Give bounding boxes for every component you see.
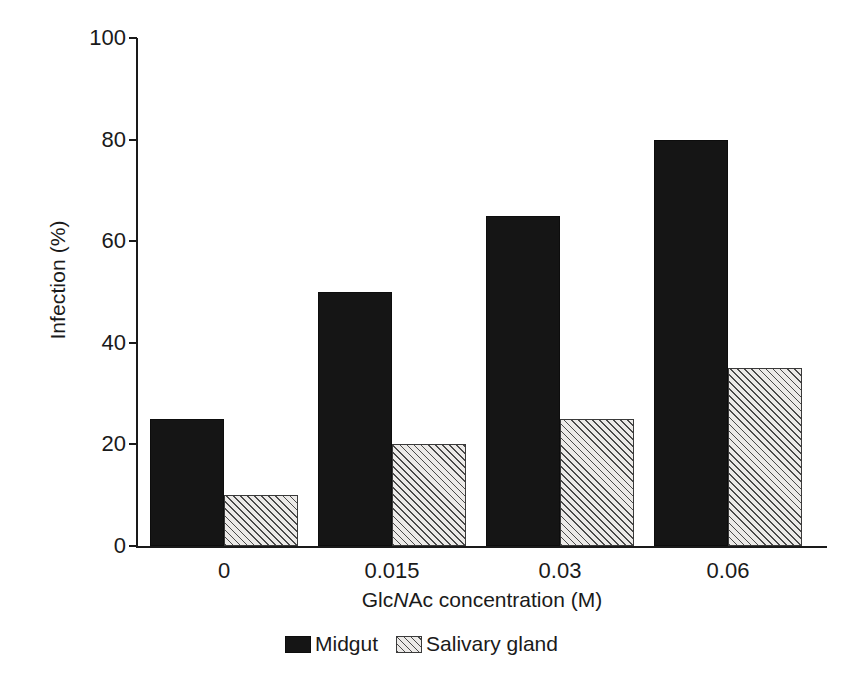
y-tick-label: 80 — [58, 129, 126, 151]
x-tick-label: 0.015 — [364, 556, 419, 586]
bar-salivary — [728, 368, 802, 546]
bar-midgut — [318, 292, 392, 546]
x-axis-title-pre: Glc — [362, 588, 394, 611]
y-tick-mark — [129, 443, 137, 445]
legend-item: Salivary gland — [396, 632, 558, 656]
x-axis-title: GlcNAc concentration (M) — [137, 588, 827, 612]
y-axis-line — [136, 38, 138, 547]
x-axis-tick-labels: 00.0150.030.06 — [137, 556, 827, 590]
x-axis-title-post: Ac concentration (M) — [408, 588, 602, 611]
y-tick-mark — [129, 139, 137, 141]
y-tick-label: 100 — [58, 27, 126, 49]
y-axis-tick-labels: 020406080100 — [58, 0, 126, 696]
legend-label: Salivary gland — [426, 632, 558, 656]
bar-salivary — [560, 419, 634, 546]
bar-chart-figure: Infection (%) 020406080100 00.0150.030.0… — [0, 0, 843, 696]
bar-salivary — [224, 495, 298, 546]
bar-midgut — [150, 419, 224, 546]
legend-item: Midgut — [285, 632, 378, 656]
x-tick-label: 0.06 — [707, 556, 750, 586]
y-tick-mark — [129, 37, 137, 39]
legend-label: Midgut — [315, 632, 378, 656]
bar-salivary — [392, 444, 466, 546]
chart-legend: MidgutSalivary gland — [0, 632, 843, 656]
bar-midgut — [654, 140, 728, 546]
y-tick-label: 40 — [58, 332, 126, 354]
y-tick-label: 0 — [58, 535, 126, 557]
solid-black-swatch — [285, 636, 311, 653]
y-tick-label: 20 — [58, 433, 126, 455]
plot-area — [137, 38, 827, 546]
y-tick-mark — [129, 342, 137, 344]
x-tick-label: 0 — [218, 556, 230, 586]
y-tick-mark — [129, 240, 137, 242]
x-axis-line — [136, 546, 827, 548]
hatched-swatch — [396, 636, 422, 653]
x-axis-title-italic: N — [393, 588, 408, 611]
y-tick-label: 60 — [58, 230, 126, 252]
y-tick-mark — [129, 545, 137, 547]
bar-midgut — [486, 216, 560, 546]
x-tick-label: 0.03 — [539, 556, 582, 586]
